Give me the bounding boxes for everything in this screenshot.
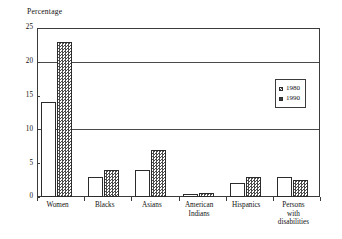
bar-group <box>37 28 84 197</box>
x-axis-tick-mark <box>37 197 38 201</box>
legend-swatch-icon <box>279 97 283 101</box>
y-axis-tick-label: 10 <box>26 126 33 133</box>
bar-1990-women <box>57 42 72 197</box>
y-axis-tick-mark <box>37 28 40 29</box>
x-axis-tick-mark <box>273 197 274 201</box>
bar-1980-asians <box>135 170 150 197</box>
bar-1980-women <box>41 102 56 197</box>
x-axis-tick-mark <box>131 197 132 201</box>
bar-1990-hispanics <box>246 177 261 197</box>
y-axis-title: Percentage <box>27 7 62 16</box>
y-axis-tick-label: 20 <box>26 58 33 65</box>
x-axis-label-line: disabilities <box>263 218 324 227</box>
x-axis-label-line: Persons <box>263 201 324 210</box>
y-axis-tick-label: 5 <box>29 160 33 167</box>
x-axis-tick-mark <box>320 197 321 201</box>
bar-1990-american-indians <box>199 193 214 197</box>
bar-1990-blacks <box>104 170 119 197</box>
y-axis-tick-label: 0 <box>29 193 33 200</box>
x-axis-tick-mark <box>226 197 227 201</box>
y-axis-tick-mark <box>37 62 40 63</box>
x-axis-tick-mark <box>179 197 180 201</box>
bar-group <box>273 28 320 197</box>
x-axis-category-labels: WomenBlacksAsiansAmericanIndiansHispanic… <box>37 201 320 239</box>
legend-item-label: 1980 <box>286 85 300 92</box>
legend-item-1980: 1980 <box>279 84 300 93</box>
y-axis-tick-labels: 0510152025 <box>14 28 33 197</box>
bars-layer <box>37 28 320 197</box>
y-axis-tick-mark <box>37 129 40 130</box>
legend-item-label: 1990 <box>286 95 300 102</box>
bar-group <box>226 28 273 197</box>
y-axis-tick-label: 15 <box>26 92 33 99</box>
chart-legend: 19801990 <box>275 79 306 108</box>
bar-1980-hispanics <box>230 183 245 197</box>
x-axis-label-line: with <box>263 210 324 219</box>
bar-1990-asians <box>151 150 166 197</box>
bar-1980-persons-with-disabilities <box>277 177 292 197</box>
bar-group <box>179 28 226 197</box>
x-axis-tick-mark <box>84 197 85 201</box>
bar-group <box>84 28 131 197</box>
bar-1980-american-indians <box>183 194 198 197</box>
x-axis-label: Personswithdisabilities <box>263 201 324 227</box>
y-axis-tick-mark <box>37 96 40 97</box>
x-axis-label-line: Indians <box>169 210 230 219</box>
legend-swatch-icon <box>279 87 283 91</box>
bar-chart: Percentage 0510152025 WomenBlacksAsiansA… <box>0 0 342 239</box>
bar-group <box>131 28 178 197</box>
bar-1980-blacks <box>88 177 103 197</box>
legend-item-1990: 1990 <box>279 94 300 103</box>
bar-1990-persons-with-disabilities <box>293 180 308 197</box>
y-axis-tick-label: 25 <box>26 24 33 31</box>
y-axis-tick-mark <box>37 163 40 164</box>
